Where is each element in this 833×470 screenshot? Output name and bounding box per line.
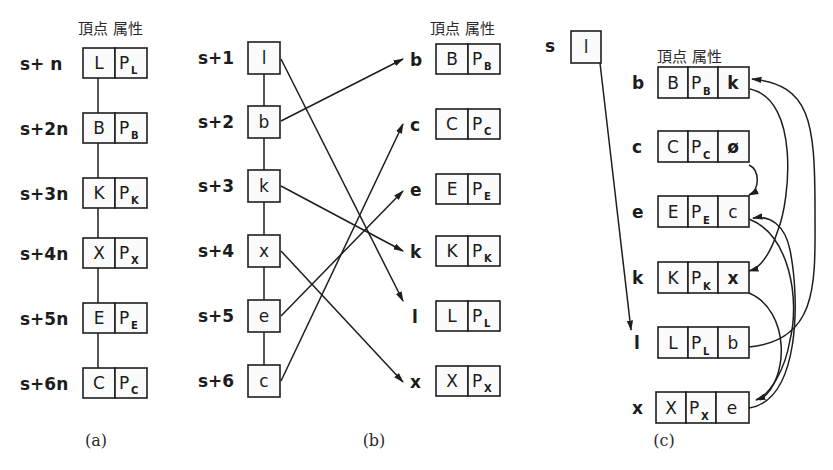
attr-subscript: K — [131, 195, 140, 206]
left-row-b-2: s+2 b — [198, 106, 280, 138]
vertex-text: X — [665, 398, 677, 418]
attr-subscript: L — [131, 65, 138, 76]
vertex-name: l — [412, 307, 418, 327]
vertex-name: x — [410, 372, 421, 392]
arrow-s-to-l — [600, 63, 631, 330]
arrow-s1-to-l — [281, 59, 403, 301]
arrow-s4-to-x — [281, 251, 403, 382]
next-pointer-text: b — [728, 333, 739, 353]
header-label-a: 頂点 属性 — [78, 20, 143, 38]
attr-subscript: B — [484, 61, 492, 72]
attr-text: P — [119, 373, 129, 393]
start-pointer-text: l — [584, 37, 589, 57]
vertex-name: c — [410, 115, 420, 135]
row-c-e: e E P E c — [632, 196, 749, 227]
attr-subscript: X — [701, 411, 709, 422]
vertex-name: c — [632, 137, 642, 157]
caption-a: (a) — [85, 431, 107, 450]
row-a-2: s+2n B P B — [20, 113, 147, 143]
vertex-name: e — [410, 180, 422, 200]
attr-text: P — [691, 333, 701, 353]
next-pointer-text: c — [728, 202, 737, 222]
arrow-s6-to-c — [281, 124, 403, 381]
next-pointer-text: x — [728, 268, 739, 288]
vertex-text: X — [446, 371, 458, 391]
right-row-b-2: c C P C — [410, 109, 500, 139]
address-label: s+4n — [20, 244, 68, 264]
attr-subscript: E — [703, 215, 710, 226]
address-label: s+5n — [20, 309, 68, 329]
attr-subscript: K — [484, 253, 493, 264]
pointer-text: c — [259, 371, 268, 391]
address-label: s+2n — [20, 119, 68, 139]
attr-text: P — [472, 114, 482, 134]
attr-subscript: E — [131, 320, 138, 331]
vertex-name: k — [632, 268, 644, 288]
attr-subscript: X — [484, 383, 492, 394]
right-row-b-4: k K P K — [410, 236, 500, 266]
address-label: s+3 — [198, 176, 234, 196]
vertex-name: l — [634, 333, 640, 353]
address-label: s+6 — [198, 371, 234, 391]
attr-text: P — [472, 241, 482, 261]
left-row-b-4: s+4 x — [198, 235, 280, 267]
attr-text: P — [119, 243, 129, 263]
vertex-name: x — [632, 398, 643, 418]
next-pointer-text: e — [727, 398, 737, 418]
pointer-text: b — [259, 112, 270, 132]
address-label: s+6n — [20, 374, 68, 394]
vertex-text: B — [446, 49, 458, 69]
attr-subscript: C — [131, 385, 138, 396]
left-row-b-1: s+1 l — [198, 42, 280, 74]
start-label: s — [545, 36, 555, 56]
vertex-text: L — [668, 333, 678, 353]
row-c-x: x X P X e — [632, 392, 749, 423]
row-a-6: s+6n C P C — [20, 368, 147, 398]
link-e-to-c — [749, 165, 757, 195]
attr-text: P — [119, 308, 129, 328]
attr-subscript: B — [703, 86, 711, 97]
row-a-1: s+ n L P L — [20, 48, 147, 78]
pointer-text: e — [259, 306, 269, 326]
caption-b: (b) — [363, 431, 386, 450]
row-c-c: c C P C ø — [632, 131, 749, 162]
left-row-b-6: s+6 c — [198, 365, 280, 397]
caption-c: (c) — [653, 431, 674, 450]
attr-subscript: X — [131, 255, 139, 266]
vertex-text: E — [94, 308, 105, 328]
attr-subscript: B — [131, 130, 139, 141]
attr-text: P — [691, 73, 701, 93]
attr-text: P — [472, 306, 482, 326]
vertex-storage-diagram: 頂点 属性 s+ n L P L s+2n B P B s+3n K P K — [0, 0, 833, 470]
vertex-text: C — [667, 137, 679, 157]
vertex-text: E — [668, 202, 679, 222]
address-label: s+1 — [198, 48, 234, 68]
left-row-b-3: s+3 k — [198, 170, 280, 202]
vertex-name: k — [410, 242, 422, 262]
row-a-4: s+4n X P X — [20, 238, 147, 268]
attr-text: P — [691, 268, 701, 288]
vertex-name: b — [632, 73, 644, 93]
attr-text: P — [119, 118, 129, 138]
address-label: s+2 — [198, 112, 234, 132]
attr-subscript: L — [484, 318, 491, 329]
right-row-b-5: l L P L — [412, 301, 500, 331]
right-row-b-6: x X P X — [410, 366, 500, 396]
vertex-text: K — [446, 241, 458, 261]
right-row-b-3: e E P E — [410, 174, 500, 204]
pointer-text: x — [259, 241, 269, 261]
row-a-5: s+5n E P E — [20, 303, 147, 333]
attr-subscript: C — [703, 150, 710, 161]
vertex-text: B — [667, 73, 679, 93]
vertex-text: L — [447, 306, 457, 326]
null-pointer-text: ø — [727, 137, 739, 157]
address-label: s+ n — [20, 54, 62, 74]
attr-text: P — [472, 49, 482, 69]
address-label: s+5 — [198, 306, 234, 326]
attr-subscript: E — [484, 191, 491, 202]
vertex-name: b — [410, 50, 422, 70]
header-label-c: 頂点 属性 — [657, 48, 722, 66]
link-b-to-k — [749, 89, 788, 271]
panel-b: s+1 l s+2 b s+3 k s+4 x s+5 e s+6 c — [198, 20, 500, 450]
row-a-3: s+3n K P K — [20, 178, 147, 208]
